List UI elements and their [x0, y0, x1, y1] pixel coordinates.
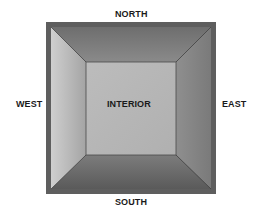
east-label: EAST [222, 99, 246, 109]
room-diagram [0, 0, 258, 218]
interior-label: INTERIOR [107, 99, 151, 109]
south-label: SOUTH [115, 197, 147, 207]
west-label: WEST [16, 99, 42, 109]
north-label: NORTH [115, 9, 148, 19]
